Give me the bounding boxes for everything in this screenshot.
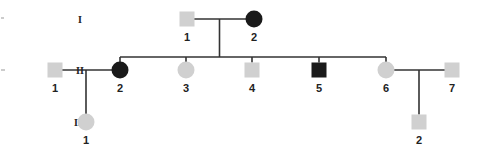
individual-ii-4: 4	[245, 63, 260, 94]
individual-ii-7: 7	[445, 63, 460, 94]
unaffected-female-circle-icon	[178, 62, 195, 79]
unaffected-male-square-icon	[180, 12, 195, 27]
unaffected-male-square-icon	[48, 63, 63, 78]
individual-iii-1: 1	[78, 114, 95, 146]
individual-number: 1	[83, 134, 89, 146]
individual-number: 4	[249, 82, 256, 94]
individual-number: 2	[251, 31, 257, 43]
individuals: 12123456712	[48, 11, 460, 146]
individual-number: 3	[183, 82, 189, 94]
individual-number: 2	[117, 82, 123, 94]
generation-labels: IIIIII	[1, 14, 86, 128]
generation-label: II	[76, 65, 84, 76]
individual-ii-2: 2	[112, 62, 129, 94]
individual-ii-5: 5	[312, 63, 327, 94]
unaffected-male-square-icon	[445, 63, 460, 78]
unaffected-male-square-icon	[412, 115, 427, 130]
individual-iii-2: 2	[412, 115, 427, 146]
individual-number: 7	[449, 82, 455, 94]
unaffected-female-circle-icon	[378, 62, 395, 79]
individual-i-1: 1	[180, 12, 195, 43]
affected-female-circle-icon	[112, 62, 129, 79]
individual-ii-6: 6	[378, 62, 395, 94]
generation-label: I	[78, 14, 82, 25]
affected-female-circle-icon	[246, 11, 263, 28]
individual-number: 5	[316, 82, 322, 94]
pedigree-diagram: IIIIII 12123456712	[0, 0, 479, 161]
individual-ii-1: 1	[48, 63, 63, 94]
individual-number: 2	[416, 134, 422, 146]
individual-number: 1	[184, 31, 190, 43]
individual-number: 1	[52, 82, 58, 94]
unaffected-male-square-icon	[245, 63, 260, 78]
individual-ii-3: 3	[178, 62, 195, 94]
individual-number: 6	[383, 82, 389, 94]
individual-i-2: 2	[246, 11, 263, 43]
unaffected-female-circle-icon	[78, 114, 95, 131]
affected-male-square-icon	[312, 63, 327, 78]
